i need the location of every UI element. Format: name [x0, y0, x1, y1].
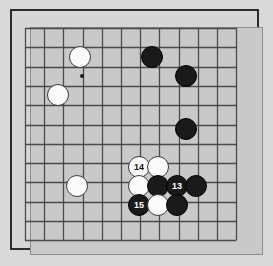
hoshi-upper-left-star-point [80, 74, 84, 78]
move-number-label: 14 [134, 163, 144, 172]
go-diagram-root: 141315 [0, 0, 273, 266]
stone-black[interactable] [175, 118, 197, 140]
move-number-label: 15 [134, 201, 144, 210]
stone-black[interactable] [185, 175, 207, 197]
move-number-label: 13 [172, 182, 182, 191]
stone-white[interactable] [47, 84, 69, 106]
stone-white[interactable] [66, 175, 88, 197]
stone-black[interactable] [166, 194, 188, 216]
stone-black[interactable] [141, 46, 163, 68]
stone-white[interactable] [69, 46, 91, 68]
board-grid [0, 0, 273, 266]
stone-black[interactable] [175, 65, 197, 87]
